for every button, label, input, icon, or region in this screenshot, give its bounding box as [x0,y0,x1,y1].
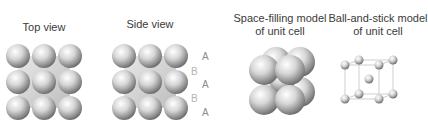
atom-sphere [164,96,188,120]
corner-atom [375,61,384,70]
atom-sphere [112,96,136,120]
atom-sphere [32,70,56,94]
ball-and-stick-title: Ball-and-stick model of unit cell [320,12,428,38]
atom-sphere-front [249,85,279,115]
atom-sphere [112,44,136,68]
layer-label-a: A [202,52,209,62]
atom-sphere [138,96,162,120]
atom-sphere [6,96,30,120]
atom-sphere [6,70,30,94]
atom-sphere [6,44,30,68]
layer-label-b: B [191,94,198,104]
sphere-grid [6,44,82,120]
side-view-title: Side view [108,18,192,31]
layer-label-a: A [202,80,209,90]
top-view-lattice [6,44,82,120]
atom-sphere [138,44,162,68]
atom-sphere [58,44,82,68]
ball-and-stick-model [341,56,398,104]
ball-and-stick-title-line2: of unit cell [320,25,428,38]
atom-sphere [32,96,56,120]
layer-label-b: B [191,67,198,77]
atom-sphere-front [249,55,279,85]
layer-label-a: A [202,108,209,118]
ball-and-stick-title-line1: Ball-and-stick model [320,12,428,25]
atom-sphere [138,70,162,94]
atom-sphere [164,70,188,94]
corner-atom [389,90,398,99]
corner-atom [375,95,384,104]
side-view-lattice [112,44,188,120]
atom-sphere [164,44,188,68]
corner-atom [341,95,350,104]
atom-sphere [58,70,82,94]
corner-atom [355,56,364,65]
corner-atom [389,56,398,65]
body-center-atom [365,75,374,84]
atom-sphere [58,96,82,120]
space-filling-model [249,47,315,115]
atom-sphere-front [275,55,305,85]
corner-atom [355,90,364,99]
corner-atom [341,61,350,70]
atom-sphere [32,44,56,68]
atom-sphere-front [275,85,305,115]
top-view-title: Top view [2,21,86,34]
atom-sphere [112,70,136,94]
